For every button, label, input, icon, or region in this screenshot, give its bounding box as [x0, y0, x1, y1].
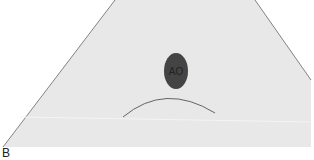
aorta-label: AO: [169, 66, 184, 77]
ultrasound-sector: [3, 0, 311, 147]
panel-label: B: [2, 146, 10, 160]
ultrasound-diagram: AO: [0, 0, 314, 160]
